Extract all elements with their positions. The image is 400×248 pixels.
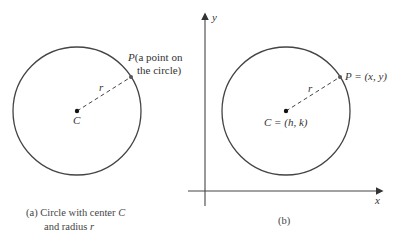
panel-a: C r P(a point on the circle) (a) Circle …: [13, 47, 183, 232]
radius-label-a: r: [99, 81, 104, 93]
point-label-a: P(a point on: [127, 51, 183, 64]
point-p-b: [338, 75, 342, 79]
radius-line-b: [286, 77, 340, 111]
panel-b: y x C = (h, k) r P = (x, y) (b): [188, 11, 387, 227]
center-label-a: C: [73, 114, 81, 126]
caption-a-line1: (a) Circle with center C: [26, 207, 126, 219]
figure-canvas: C r P(a point on the circle) (a) Circle …: [0, 0, 400, 248]
center-point-a: [75, 109, 79, 113]
center-label-b: C = (h, k): [264, 116, 308, 129]
point-label-b: P = (x, y): [344, 70, 387, 83]
radius-label-b: r: [308, 82, 313, 94]
point-label-a-line2: the circle): [137, 64, 182, 77]
caption-b: (b): [278, 215, 291, 227]
center-point-b: [284, 109, 288, 113]
point-p-a: [129, 75, 133, 79]
radius-line-a: [77, 77, 131, 111]
y-axis-label: y: [211, 11, 217, 23]
x-axis-label: x: [374, 194, 380, 206]
caption-a-line2: and radius r: [44, 221, 95, 232]
